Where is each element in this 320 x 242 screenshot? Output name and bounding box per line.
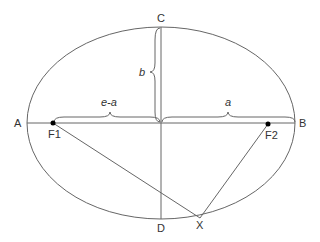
- line-f1-x: [53, 123, 200, 218]
- ellipse-diagram: A B C D F1 F2 X b e-a a: [0, 0, 320, 242]
- label-a-point: A: [14, 117, 22, 129]
- focus-f1: [51, 121, 56, 126]
- label-f1: F1: [48, 128, 61, 140]
- label-brace-b: b: [139, 66, 145, 78]
- label-b-point: B: [299, 117, 306, 129]
- label-d-point: D: [157, 222, 165, 234]
- label-f2: F2: [265, 129, 278, 141]
- focus-f2: [266, 122, 271, 127]
- brace-a: [162, 112, 295, 122]
- label-c-point: C: [157, 12, 165, 24]
- label-brace-a: a: [225, 96, 231, 108]
- label-brace-e-minus-a: e-a: [101, 96, 117, 108]
- brace-b: [150, 28, 160, 122]
- brace-e-minus-a: [54, 112, 160, 122]
- label-x-point: X: [196, 219, 204, 231]
